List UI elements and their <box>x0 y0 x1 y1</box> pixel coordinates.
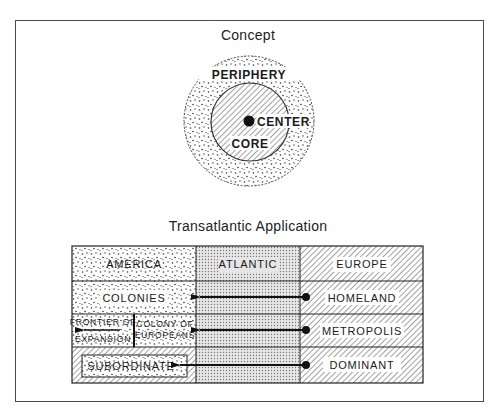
periphery-label: PERIPHERY <box>212 68 286 82</box>
column-header-atlantic: ATLANTIC <box>219 258 278 270</box>
column-header-europe: EUROPE <box>336 258 387 270</box>
frontier-label-line2: EXPANSION <box>75 334 131 344</box>
homeland-dot <box>302 293 310 301</box>
colonies-label: COLONIES <box>102 292 165 304</box>
diagram-canvas: PERIPHERY CENTER CORE AMERICA ATLANTIC E… <box>0 0 496 414</box>
concept-diagram: PERIPHERY CENTER CORE <box>184 56 314 186</box>
application-table: AMERICA ATLANTIC EUROPE COLONIES HOMELAN… <box>70 246 423 383</box>
dominant-label: DOMINANT <box>329 359 394 371</box>
center-label: CENTER <box>257 115 310 129</box>
frontier-label-line1: FRONTIER OF <box>70 317 136 327</box>
colony-label-line2: EUROPEANS <box>135 330 196 340</box>
homeland-label: HOMELAND <box>328 292 397 304</box>
subordinate-label: SUBORDINATE <box>87 360 174 372</box>
metropolis-dot <box>302 326 310 334</box>
column-header-america: AMERICA <box>106 258 162 270</box>
metropolis-label: METROPOLIS <box>322 325 402 337</box>
center-dot <box>244 116 255 127</box>
dominant-dot <box>302 361 310 369</box>
core-label: CORE <box>231 137 268 151</box>
colony-label-line1: COLONY OF <box>136 319 193 329</box>
